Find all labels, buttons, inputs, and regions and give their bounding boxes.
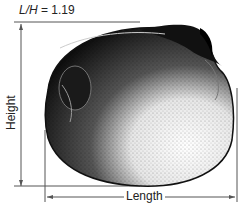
length-height-ratio: L/H = 1.19: [19, 3, 75, 17]
clam-shell-illustration: [45, 25, 233, 186]
ratio-value: = 1.19: [38, 3, 75, 17]
height-label: Height: [4, 95, 18, 130]
length-arrow-right-icon: [229, 195, 235, 199]
height-arrow-top-icon: [19, 24, 23, 30]
ratio-variable: L/H: [19, 3, 38, 17]
length-label: Length: [124, 189, 165, 203]
shell-diagram: [0, 0, 251, 221]
length-arrow-left-icon: [47, 195, 53, 199]
height-arrow-bottom-icon: [19, 180, 23, 186]
